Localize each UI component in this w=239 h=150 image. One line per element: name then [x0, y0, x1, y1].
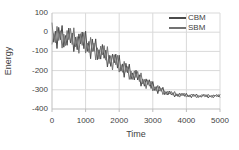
x-tick-label: 1000: [69, 117, 103, 125]
x-tick-label: 3000: [136, 117, 170, 125]
x-tick-label: 5000: [203, 117, 237, 125]
legend: CBM SBM: [169, 13, 206, 33]
sbm-line-swatch: [169, 27, 186, 29]
legend-label-sbm: SBM: [188, 24, 205, 32]
x-axis-title: Time: [126, 129, 146, 139]
y-tick-label: 0: [0, 28, 48, 36]
legend-item-sbm: SBM: [169, 23, 206, 33]
y-tick-label: -100: [0, 47, 48, 55]
x-tick-label: 2000: [102, 117, 136, 125]
series-cbm: [52, 23, 220, 98]
legend-item-cbm: CBM: [169, 13, 206, 23]
series-sbm: [52, 26, 220, 98]
x-tick-label: 4000: [169, 117, 203, 125]
y-tick-label: -200: [0, 67, 48, 75]
x-tick-label: 0: [35, 117, 69, 125]
energy-time-chart: Energy Time 1000-100-200-300-400 0100020…: [0, 0, 239, 150]
legend-label-cbm: CBM: [188, 14, 206, 22]
y-tick-label: 100: [0, 9, 48, 17]
y-tick-label: -400: [0, 105, 48, 113]
y-tick-label: -300: [0, 86, 48, 94]
cbm-line-swatch: [169, 17, 186, 19]
